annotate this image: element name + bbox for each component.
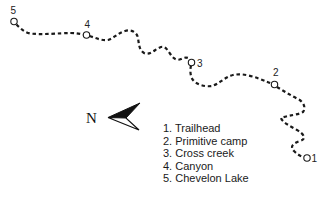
compass: N xyxy=(86,103,140,130)
waypoint-marker-icon xyxy=(188,59,194,65)
waypoint-label: 3 xyxy=(197,58,203,69)
waypoint-label: 1 xyxy=(312,153,318,164)
waypoint-marker-icon xyxy=(304,155,310,161)
waypoint-5: 5 xyxy=(11,5,18,25)
north-label: N xyxy=(86,110,97,126)
legend-item-chevelon-lake: 5. Chevelon Lake xyxy=(163,172,249,185)
waypoint-label: 2 xyxy=(273,67,279,78)
waypoint-marker-icon xyxy=(11,18,17,24)
waypoint-label: 4 xyxy=(85,19,91,30)
north-arrow-icon xyxy=(108,103,140,130)
waypoint-marker-icon xyxy=(271,81,277,87)
legend: 1. Trailhead 2. Primitive camp 3. Cross … xyxy=(163,122,249,185)
waypoint-2: 2 xyxy=(271,67,279,88)
trail-path xyxy=(17,25,305,158)
waypoint-1: 1 xyxy=(304,153,318,164)
waypoint-label: 5 xyxy=(11,5,17,16)
legend-item-cross-creek: 3. Cross creek xyxy=(163,147,249,160)
legend-item-canyon: 4. Canyon xyxy=(163,160,249,173)
waypoint-marker-icon xyxy=(83,32,89,38)
waypoint-4: 4 xyxy=(83,19,90,38)
legend-item-trailhead: 1. Trailhead xyxy=(163,122,249,135)
legend-item-primitive-camp: 2. Primitive camp xyxy=(163,135,249,148)
